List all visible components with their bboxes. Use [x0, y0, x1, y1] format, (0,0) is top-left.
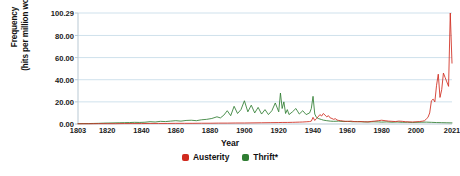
legend-swatch-icon: [242, 154, 249, 161]
legend-label: Thrift*: [253, 152, 278, 162]
series-line-austerity: [78, 13, 452, 124]
x-tick-label: 1940: [305, 126, 321, 135]
legend-item[interactable]: Thrift*: [242, 152, 278, 162]
chart-legend: AusterityThrift*: [0, 152, 460, 162]
x-tick-label: 1860: [168, 126, 184, 135]
frequency-line-chart: Frequency (hits per million words) 0.002…: [0, 0, 460, 176]
x-tick-label: 2021: [444, 126, 460, 135]
x-tick-label: 1920: [270, 126, 286, 135]
legend-item[interactable]: Austerity: [182, 152, 229, 162]
x-tick-label: 2000: [408, 126, 424, 135]
x-tick-label: 1820: [99, 126, 115, 135]
legend-swatch-icon: [182, 154, 189, 161]
x-tick-label: 1900: [236, 126, 252, 135]
x-tick-label: 1803: [70, 126, 86, 135]
x-tick-label: 1960: [339, 126, 355, 135]
x-axis-title: Year: [0, 138, 460, 148]
x-tick-label: 1980: [373, 126, 389, 135]
series-line-thrift: [78, 93, 452, 124]
plot-area: [0, 0, 460, 176]
x-tick-label: 1840: [133, 126, 149, 135]
legend-label: Austerity: [193, 152, 229, 162]
x-tick-label: 1880: [202, 126, 218, 135]
